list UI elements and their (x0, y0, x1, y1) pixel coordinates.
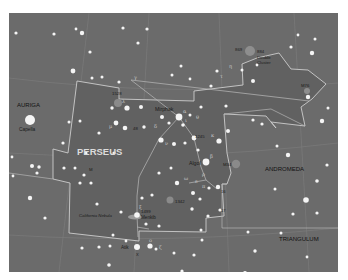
double-cluster-label-2: Cluster (257, 60, 271, 65)
omega-label: ω (184, 175, 188, 181)
atik-label: Atik (121, 245, 129, 250)
mirphak-label: Mirphak (155, 106, 174, 112)
menkib-star (134, 212, 140, 218)
triangulum-label: TRIANGULUM (279, 236, 319, 242)
algol-label: Algol (189, 160, 201, 166)
perseus-label: PERSEUS (77, 146, 122, 157)
auriga-label: AURIGA (17, 102, 40, 108)
andromeda-label: ANDROMEDA (265, 166, 304, 172)
iota-label: ι (185, 117, 187, 123)
xi-label: ξ (139, 204, 142, 211)
omicron-label: ο (149, 237, 152, 243)
m76-label: M76 (301, 83, 310, 88)
ngc884-label: 884 (257, 49, 265, 54)
double-cluster (245, 46, 255, 56)
star-map-canvas: PERSEUS AURIGA ANDROMEDA TRIANGULUM Cape… (9, 13, 338, 272)
epsilon-label: ε (195, 178, 198, 184)
ngc1342-label: 1342 (175, 199, 185, 204)
delta-label: δ (154, 123, 157, 129)
beta-label: β (210, 153, 213, 160)
ngc1499-label: 1499 (141, 209, 151, 214)
star-16-label: 16 (221, 189, 226, 194)
theta-label: θ (196, 114, 199, 120)
california-nebula-label: California Nebula (79, 213, 113, 218)
rho-label: ρ (202, 171, 205, 178)
ngc1528-cluster (114, 99, 122, 107)
star-17-label: 17 (221, 208, 226, 213)
ngc869-label: 869 (235, 47, 243, 52)
atik-star (134, 244, 140, 250)
gamma-label: γ (134, 74, 137, 81)
zeta-label: ζ (159, 244, 162, 251)
algol-star (203, 159, 210, 166)
tau-label: τ (220, 73, 223, 79)
m76-nebula (304, 88, 310, 94)
star-48-label: 48 (133, 126, 138, 131)
nu-label: ν (165, 140, 168, 146)
m34-cluster (232, 160, 240, 168)
ngc1528-label: 1528 (112, 91, 122, 96)
m-label: M (89, 167, 93, 172)
menkib-label: Menkib (141, 215, 156, 220)
eta-label: η (229, 63, 232, 70)
star-x-label: X (136, 252, 139, 257)
ngc1245-label: 1245 (195, 134, 205, 139)
capella-label: Capella (19, 127, 36, 132)
ngc1342-cluster (167, 197, 174, 204)
m34-label: M34 (223, 162, 232, 167)
capella-star (25, 115, 35, 125)
star-chart: PERSEUS AURIGA ANDROMEDA TRIANGULUM Cape… (9, 13, 338, 272)
mirphak-star (176, 114, 183, 121)
